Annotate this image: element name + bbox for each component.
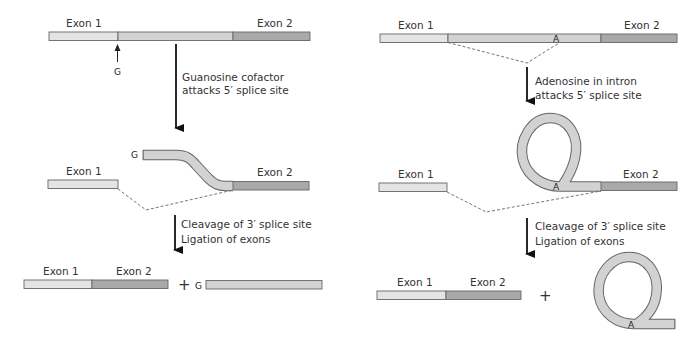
left-arrow2-caption-line2: Ligation of exons: [181, 233, 271, 245]
left-step3-exon2-label: Exon 2: [116, 265, 152, 277]
left-arrow1-caption-line2: attacks 5′ splice site: [182, 84, 289, 96]
right-step2-branch-a-label: A: [553, 182, 560, 192]
left-step3-exon2-bar: [92, 280, 168, 289]
left-step2-exon2-label: Exon 2: [257, 166, 293, 178]
right-lariat-intermediate: A Exon 1 Exon 2: [379, 118, 677, 212]
right-step1-intron-bar: [448, 34, 601, 43]
left-step1-exon1-bar: [49, 32, 118, 41]
right-precursor-rna: Exon 1 Exon 2 A: [380, 19, 677, 63]
left-plus-sign: +: [178, 276, 191, 294]
right-arrow1-caption-line2: attacks 5′ splice site: [535, 89, 642, 101]
left-step2-g-label: G: [131, 150, 138, 160]
left-step2-exon1-label: Exon 1: [66, 165, 102, 177]
right-step2-exon2-bar: [601, 182, 677, 191]
left-step3-exon1-bar: [24, 280, 92, 289]
left-step2-exon1-bar: [48, 180, 118, 189]
right-step2-dashed-connector: [447, 191, 601, 212]
right-step3-exon2-bar: [446, 291, 521, 300]
right-step2-exon2-label: Exon 2: [623, 168, 659, 180]
left-intermediate: G Exon 1 Exon 2: [48, 150, 309, 210]
right-step1-exon1-bar: [380, 34, 448, 43]
left-step3-excised-intron: [206, 281, 322, 290]
left-step1-intron-bar: [118, 32, 233, 41]
left-step1-g-label: G: [114, 67, 121, 77]
left-g-arrowhead-icon: [115, 44, 121, 51]
left-panel: Exon 1 Exon 2 G Guanosine cofactor attac…: [24, 17, 322, 294]
right-panel: Exon 1 Exon 2 A Adenosine in intron atta…: [377, 19, 677, 330]
left-step2-exon2-bar: [233, 182, 309, 191]
right-step2-exon1-label: Exon 1: [398, 168, 434, 180]
left-arrow2-caption-line1: Cleavage of 3′ splice site: [181, 218, 312, 230]
left-step3-exon1-label: Exon 1: [43, 265, 79, 277]
right-plus-sign: +: [539, 287, 552, 305]
left-arrow1-caption-line1: Guanosine cofactor: [182, 71, 285, 83]
left-step3-g-label: G: [195, 281, 202, 291]
right-step3-exon1-label: Exon 1: [397, 276, 433, 288]
left-step2-dashed-connector: [118, 189, 233, 210]
right-step2-exon1-bar: [379, 183, 447, 192]
left-step1-exon2-label: Exon 2: [257, 17, 293, 29]
left-step1-exon1-label: Exon 1: [66, 17, 102, 29]
left-products: Exon 1 Exon 2 + G: [24, 265, 322, 294]
right-step1-exon2-label: Exon 2: [624, 19, 660, 31]
left-precursor-rna: Exon 1 Exon 2 G: [49, 17, 310, 77]
right-step3-exon2-label: Exon 2: [470, 276, 506, 288]
right-step1-exon1-label: Exon 1: [398, 19, 434, 31]
right-step1-exon2-bar: [601, 34, 677, 43]
right-step3-branch-a-label: A: [628, 320, 635, 330]
right-arrow2-caption-line1: Cleavage of 3′ splice site: [535, 220, 666, 232]
right-step1-branch-a-label: A: [553, 34, 560, 44]
splicing-diagram: Exon 1 Exon 2 G Guanosine cofactor attac…: [0, 0, 698, 338]
left-step1-exon2-bar: [233, 32, 310, 41]
right-arrow2-caption-line2: Ligation of exons: [535, 235, 625, 247]
right-arrow1-caption-line1: Adenosine in intron: [535, 75, 637, 87]
right-products: Exon 1 Exon 2 + A: [377, 257, 675, 330]
right-step1-dashed-connector: [448, 43, 559, 64]
right-step3-exon1-bar: [377, 291, 446, 300]
